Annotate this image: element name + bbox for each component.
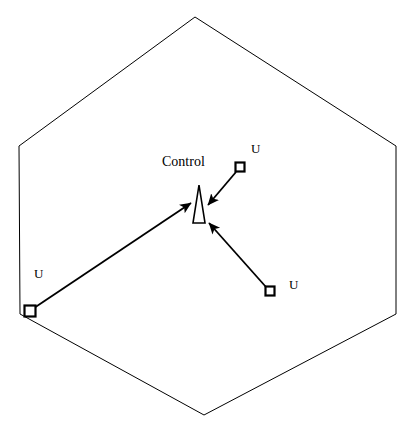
- node-square-group: [25, 163, 275, 317]
- node-left-label: U: [34, 267, 43, 280]
- node-bottom-right[interactable]: [266, 287, 275, 296]
- arrow-top-right-node-to-control: [208, 172, 236, 205]
- control-triangle-icon[interactable]: [193, 185, 205, 223]
- control-label: Control: [162, 155, 205, 169]
- arrow-bottom-right-node-to-control: [209, 223, 266, 287]
- diagram-canvas: Control UUU: [0, 0, 414, 430]
- diagram-svg: [0, 0, 414, 430]
- arrow-left-node-to-control: [34, 203, 191, 308]
- node-top-right-label: U: [251, 142, 260, 155]
- node-bottom-right-label: U: [289, 278, 298, 291]
- node-left[interactable]: [25, 306, 36, 317]
- node-top-right[interactable]: [236, 163, 245, 172]
- hexagon-boundary: [19, 17, 396, 415]
